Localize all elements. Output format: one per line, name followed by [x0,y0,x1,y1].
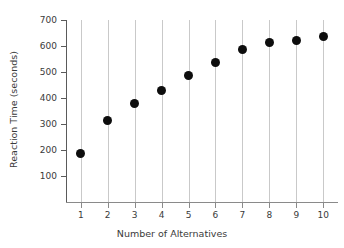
gridline [108,20,109,202]
data-point [157,86,166,95]
y-tick [61,98,67,99]
y-tick-label: 100 [40,172,57,181]
y-tick [61,20,67,21]
x-tick-label: 3 [123,211,147,220]
data-point [265,38,274,47]
x-tick [269,203,270,208]
gridline [215,20,216,202]
x-tick-label: 10 [311,211,335,220]
gridline [135,20,136,202]
gridline [296,20,297,202]
x-tick-label: 5 [177,211,201,220]
y-tick [61,46,67,47]
y-tick-label: 700 [40,16,57,25]
y-tick-label: 500 [40,68,57,77]
y-tick [61,124,67,125]
y-axis-title: Reaction Time (seconds) [8,40,19,180]
data-point [292,36,301,45]
x-tick-label: 4 [150,211,174,220]
data-point [130,99,139,108]
x-tick-label: 1 [69,211,93,220]
x-tick [215,203,216,208]
x-tick-label: 2 [96,211,120,220]
gridline [269,20,270,202]
plot-area [66,20,338,202]
gridline [323,20,324,202]
gridline [162,20,163,202]
reaction-time-scatter-chart: 100200300400500600700 12345678910 Number… [0,0,344,248]
x-tick-label: 9 [284,211,308,220]
data-point [211,58,220,67]
x-tick [135,203,136,208]
x-tick [323,203,324,208]
y-tick-label: 600 [40,42,57,51]
y-tick-label: 300 [40,120,57,129]
y-axis-line [66,20,67,202]
data-point [76,149,85,158]
x-tick [108,203,109,208]
data-point [319,32,328,41]
data-point [238,45,247,54]
x-axis-title: Number of Alternatives [0,228,344,239]
x-tick-label: 7 [230,211,254,220]
data-point [103,116,112,125]
y-tick [61,72,67,73]
y-tick [61,176,67,177]
x-tick [81,203,82,208]
x-tick [296,203,297,208]
y-tick-label: 200 [40,146,57,155]
x-tick [189,203,190,208]
x-tick [242,203,243,208]
gridline [81,20,82,202]
x-tick [162,203,163,208]
y-tick [61,150,67,151]
gridline [189,20,190,202]
y-tick-label: 400 [40,94,57,103]
x-tick-label: 6 [203,211,227,220]
data-point [184,71,193,80]
x-tick-label: 8 [257,211,281,220]
